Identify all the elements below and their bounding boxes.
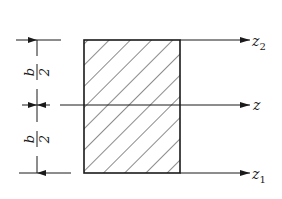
dimension-lower-half: b 2 [22,105,52,173]
axis-z2: z2 [180,33,266,52]
extension-lines [16,40,71,173]
dim-denominator: 2 [37,135,52,144]
dim-denominator: 2 [37,68,52,77]
dim-numerator: b [22,68,37,76]
axis-z-label: z [252,97,261,113]
hatched-rectangle [84,40,180,173]
axis-z2-label: z2 [251,33,266,52]
axis-z1: z1 [180,166,266,185]
axis-z1-label: z1 [251,166,266,185]
dimension-upper-half: b 2 [22,40,52,105]
cross-section-diagram: z2 z z1 b 2 b 2 [0,0,282,199]
dim-numerator: b [22,135,37,143]
